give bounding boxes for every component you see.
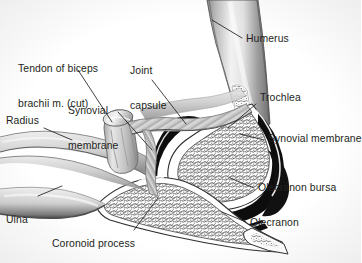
label-olecranon-bursa: Olecranon bursa	[258, 182, 336, 194]
label-ulna: Ulna	[6, 214, 28, 226]
label-joint-capsule-line1: Joint	[130, 65, 167, 77]
label-radius: Radius	[6, 115, 39, 127]
label-coronoid-process: Coronoid process	[52, 238, 135, 250]
label-synovial-membrane-left-line1: Synovial	[68, 105, 118, 117]
label-synovial-membrane-left: Synovial membrane	[68, 82, 118, 175]
label-synovial-membrane-right: Synovial membrane	[268, 133, 362, 145]
label-synovial-membrane-left-line2: membrane	[68, 140, 118, 152]
label-humerus: Humerus	[246, 33, 289, 45]
label-trochlea: Trochlea	[260, 92, 301, 104]
label-tendon-of-biceps-line1: Tendon of biceps	[18, 63, 98, 75]
label-olecranon: Olecranon	[250, 217, 299, 229]
label-joint-capsule-line2: capsule	[130, 100, 167, 112]
label-joint-capsule: Joint capsule	[130, 42, 167, 135]
